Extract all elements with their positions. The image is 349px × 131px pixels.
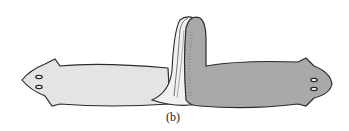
figure-caption: (b) <box>166 110 180 125</box>
left-worm <box>22 59 170 106</box>
left-eyespot-lower <box>36 85 42 88</box>
right-eyespot-upper <box>311 78 317 81</box>
right-eyespot-lower <box>311 87 317 90</box>
left-eyespot-upper <box>36 75 42 78</box>
right-worm <box>185 17 333 107</box>
